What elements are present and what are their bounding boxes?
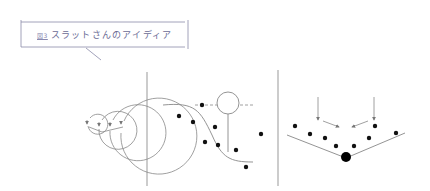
minimum-dot bbox=[341, 152, 351, 162]
figure-illustration bbox=[0, 0, 430, 191]
balloon-marker bbox=[217, 92, 239, 114]
spiral-panel bbox=[87, 98, 197, 174]
caption-frame bbox=[21, 20, 188, 60]
valley-panel bbox=[287, 97, 405, 162]
data-dots bbox=[293, 124, 398, 148]
data-dots bbox=[177, 103, 263, 169]
